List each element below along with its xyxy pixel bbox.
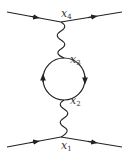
feynman-diagram: x4 x3 x2 x1 [0, 0, 131, 157]
vertex-label-x2: x2 [70, 94, 81, 108]
vertex-label-x1: x1 [61, 139, 72, 153]
vertex-label-x3: x3 [70, 53, 81, 67]
upper-photon-line [57, 22, 65, 58]
arrow-icon [30, 142, 37, 143]
arrow-icon [30, 16, 37, 17]
vertex-label-x4: x4 [61, 7, 72, 21]
arrow-icon [88, 141, 95, 142]
arrow-icon [88, 17, 95, 18]
lower-photon-line [60, 100, 68, 137]
